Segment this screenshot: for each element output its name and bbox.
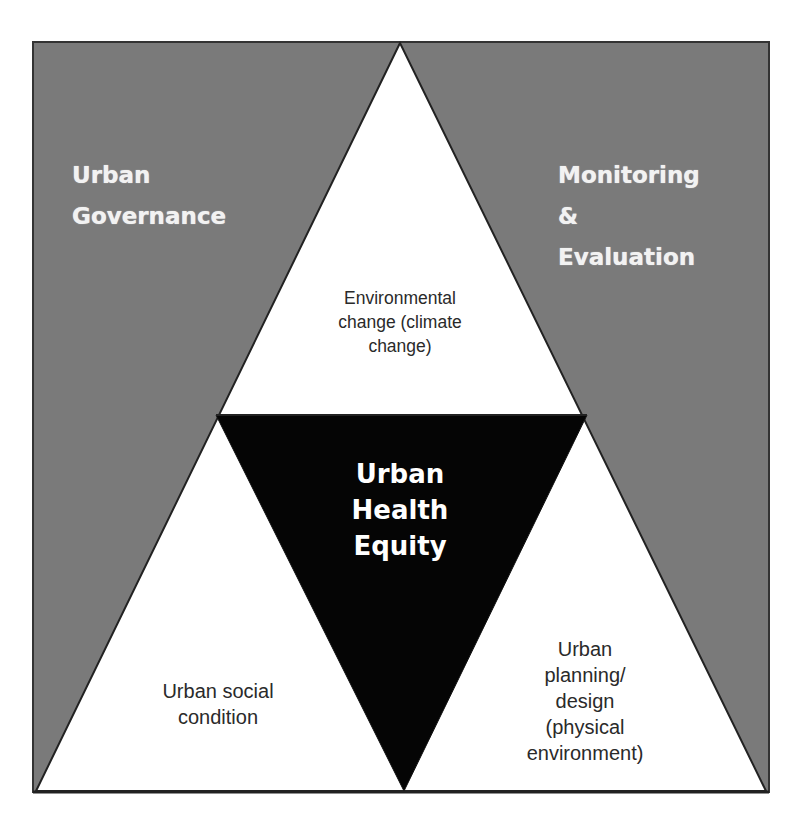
monitoring-evaluation-label: Monitoring & Evaluation <box>558 155 700 278</box>
environmental-change-label: Environmental change (climate change) <box>300 286 500 358</box>
urban-governance-label: Urban Governance <box>72 155 226 237</box>
urban-health-equity-diagram: Urban Governance Monitoring & Evaluation… <box>0 0 799 823</box>
urban-social-condition-label: Urban social condition <box>118 678 318 730</box>
urban-planning-design-label: Urban planning/ design (physical environ… <box>510 636 660 766</box>
urban-health-equity-label: Urban Health Equity <box>300 456 500 564</box>
